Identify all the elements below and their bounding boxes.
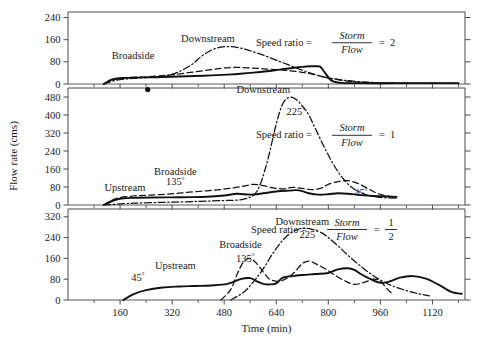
annotation-prefix: Speed ratio = bbox=[251, 224, 307, 235]
x-tick-label: 1120 bbox=[422, 307, 443, 318]
annotation-denominator: Flow bbox=[340, 44, 363, 55]
curve-label: Broadside bbox=[219, 239, 262, 250]
series-upstream bbox=[123, 268, 461, 300]
curve-label: Upstream bbox=[105, 182, 146, 193]
annotation-prefix: Speed ratio = bbox=[256, 129, 312, 140]
flow-rate-chart: 080160240BroadsideDownstreamSpeed ratio … bbox=[0, 0, 489, 348]
y-tick-label: 80 bbox=[50, 274, 61, 285]
panel-bottom: 080160240320UpstreamBroadsideDownstream4… bbox=[45, 209, 471, 306]
y-tick-label: 0 bbox=[55, 295, 60, 306]
panel-middle: 080160240320400480UpstreamBroadsideDowns… bbox=[45, 84, 471, 211]
y-tick-label: 480 bbox=[45, 92, 61, 103]
x-tick-label: 800 bbox=[320, 307, 336, 318]
curve-label: Downstream bbox=[181, 33, 235, 44]
curve-label: Broadside bbox=[112, 50, 155, 61]
series-downstream bbox=[104, 47, 459, 84]
angle-label: 135° bbox=[166, 176, 185, 188]
annotation-value: 2 bbox=[390, 37, 395, 48]
y-tick-label: 320 bbox=[45, 211, 61, 222]
panel-frame bbox=[68, 12, 465, 84]
y-tick-label: 0 bbox=[55, 200, 60, 211]
y-tick-label: 80 bbox=[50, 56, 61, 67]
x-tick-label: 320 bbox=[164, 307, 180, 318]
speed-ratio-annotation: Speed ratio = StormFlow=2 bbox=[256, 30, 395, 56]
x-tick-label: 960 bbox=[373, 307, 389, 318]
annotation-equals: = bbox=[379, 129, 385, 140]
annotation-denominator: Flow bbox=[340, 137, 363, 148]
annotation-numerator: Storm bbox=[339, 30, 365, 41]
y-tick-label: 160 bbox=[45, 253, 61, 264]
series-upstream bbox=[104, 66, 459, 84]
curve-label: Downstream bbox=[236, 84, 290, 95]
panel-top: 080160240BroadsideDownstreamSpeed ratio … bbox=[45, 12, 471, 90]
annotation-value-numerator: 1 bbox=[388, 217, 393, 228]
x-axis: 1603204806408009601120Time (min) bbox=[112, 307, 443, 335]
y-tick-label: 320 bbox=[45, 128, 61, 139]
x-tick-label: 160 bbox=[112, 307, 128, 318]
annotation-value: 1 bbox=[390, 129, 395, 140]
y-tick-label: 80 bbox=[50, 182, 61, 193]
y-tick-label: 240 bbox=[45, 232, 61, 243]
y-tick-label: 240 bbox=[45, 12, 61, 23]
y-tick-label: 400 bbox=[45, 110, 61, 121]
annotation-equals: = bbox=[374, 224, 380, 235]
annotation-prefix: Speed ratio = bbox=[256, 37, 312, 48]
angle-label: 45° bbox=[131, 271, 145, 283]
series-broadside bbox=[104, 67, 459, 84]
x-tick-label: 640 bbox=[268, 307, 284, 318]
annotation-value-denominator: 2 bbox=[388, 231, 393, 242]
y-tick-label: 160 bbox=[45, 164, 61, 175]
annotation-numerator: Storm bbox=[334, 217, 360, 228]
x-axis-title: Time (min) bbox=[241, 322, 291, 335]
y-tick-label: 160 bbox=[45, 34, 61, 45]
speed-ratio-annotation: Speed ratio = StormFlow=1 bbox=[256, 122, 395, 148]
x-tick-label: 480 bbox=[216, 307, 232, 318]
angle-label: 135° bbox=[236, 252, 255, 264]
angle-label: 225° bbox=[287, 106, 306, 118]
figure-container: 080160240BroadsideDownstreamSpeed ratio … bbox=[0, 0, 489, 348]
annotation-numerator: Storm bbox=[339, 122, 365, 133]
y-tick-label: 240 bbox=[45, 146, 61, 157]
series-broadside bbox=[221, 258, 393, 300]
series-broadside bbox=[104, 181, 397, 205]
baseline-dot-marker bbox=[145, 87, 150, 92]
annotation-denominator: Flow bbox=[335, 231, 358, 242]
y-axis-title: Flow rate (cms) bbox=[7, 121, 20, 191]
annotation-equals: = bbox=[379, 37, 385, 48]
curve-label: Upstream bbox=[155, 260, 196, 271]
series-downstream bbox=[104, 97, 397, 205]
y-tick-label: 0 bbox=[55, 79, 60, 90]
